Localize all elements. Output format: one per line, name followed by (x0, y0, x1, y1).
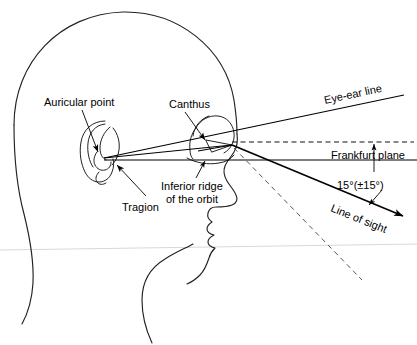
face-profile-outline (187, 134, 237, 284)
tragion-leader (117, 165, 146, 196)
inferior-ridge-label-line1: Inferior ridge (161, 180, 223, 192)
ear-antihelix (100, 127, 110, 160)
inferior-ridge-leader (196, 161, 205, 178)
frankfurt-plane-label: Frankfurt plane (331, 149, 405, 161)
angle-label: 15°(±15°) (337, 179, 384, 191)
ear-lobule (96, 172, 106, 184)
tragion-label: Tragion (122, 201, 159, 213)
ear-helix-outline (80, 121, 113, 182)
auricular-point-label: Auricular point (44, 96, 114, 108)
head-profile-svg: Auricular point Canthus Tragion Inferior… (0, 0, 417, 345)
anatomical-diagram: Auricular point Canthus Tragion Inferior… (0, 0, 417, 345)
back-of-head-neck-outline (14, 125, 33, 324)
cranium-outline (14, 12, 237, 134)
canthus-label: Canthus (169, 98, 210, 110)
inferior-ridge-label-line2: of the orbit (166, 193, 218, 205)
angle-lower-arrow (369, 190, 382, 205)
eye-ear-line-label: Eye-ear line (323, 82, 383, 106)
jaw-neck-outline (142, 244, 193, 343)
ear-concha-tragus (94, 152, 111, 170)
auricular-point-leader (82, 110, 98, 152)
eye-outer-curve (190, 128, 196, 159)
ear-helix-fold (88, 124, 105, 167)
canthus-leader (185, 112, 205, 140)
